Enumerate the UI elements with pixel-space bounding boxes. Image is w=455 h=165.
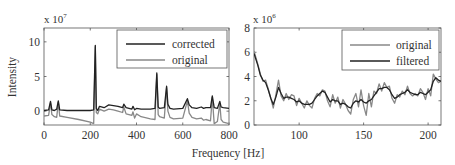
y-multiplier-right: x 106	[253, 12, 276, 25]
x-tick-label: 800	[220, 129, 238, 141]
y-tick-label: 2	[244, 95, 250, 107]
x-tick-label: 200	[82, 129, 100, 141]
y-tick-label: 5	[34, 71, 40, 83]
legend-label-original: original	[172, 54, 208, 67]
x-tick-label: 400	[128, 129, 146, 141]
y-tick-label: 0	[34, 105, 40, 117]
y-axis-label: Intensity	[6, 57, 19, 97]
y-tick-label: 0	[244, 119, 250, 131]
legend-label-original: original	[396, 39, 432, 52]
y-tick-label: 4	[244, 71, 250, 83]
legend-label-filtered: filtered	[396, 55, 429, 67]
figure: 02004006008000510 x 107 corrected origin…	[0, 0, 455, 165]
y-tick-label: 10	[29, 36, 41, 48]
y-tick-label: 6	[244, 46, 250, 58]
y-tick-label: 8	[244, 22, 250, 34]
x-tick-label: 600	[174, 129, 192, 141]
legend-left: corrected original	[117, 30, 227, 68]
legend-right: original filtered	[342, 30, 439, 70]
x-tick-label: 200	[419, 129, 437, 141]
chart-panel-left: 02004006008000510 x 107 corrected origin…	[6, 12, 238, 141]
x-tick-label: 0	[41, 129, 47, 141]
legend-label-corrected: corrected	[172, 38, 215, 50]
chart-panel-right: 10015020002468 x 106 original filtered	[244, 12, 441, 141]
x-tick-label: 100	[291, 129, 309, 141]
y-multiplier-left: x 107	[44, 12, 67, 25]
x-tick-label: 150	[355, 129, 373, 141]
x-axis-label: Frequency [Hz]	[192, 147, 264, 160]
